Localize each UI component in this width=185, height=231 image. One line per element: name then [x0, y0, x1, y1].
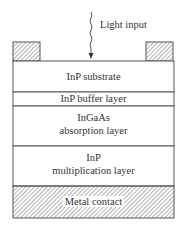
metal-contact-label: Metal contact: [63, 196, 124, 207]
arrowhead-icon: [89, 53, 94, 59]
top-contact-right: [146, 42, 173, 61]
substrate-label: InP substrate: [13, 71, 174, 83]
light-arrow-icon: [90, 12, 92, 53]
multiplication-label-line1: InP: [13, 152, 174, 164]
absorption-label-line1: InGaAs: [13, 112, 174, 124]
light-input-label: Light input: [100, 19, 147, 31]
metal-contact-label-wrap: Metal contact: [13, 196, 174, 208]
multiplication-label-line2: multiplication layer: [13, 165, 174, 177]
buffer-label: InP buffer layer: [13, 93, 174, 105]
top-contact-left: [13, 42, 40, 61]
absorption-label-line2: absorption layer: [13, 125, 174, 137]
